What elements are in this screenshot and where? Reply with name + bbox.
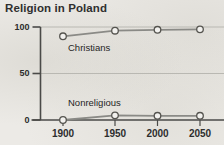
series-label-christians: Christians [68, 43, 110, 53]
data-point-nonreligious-2050 [197, 113, 204, 120]
data-point-christians-2000 [154, 26, 161, 33]
data-point-christians-2050 [197, 26, 204, 33]
data-point-christians-1950 [112, 27, 119, 34]
data-point-christians-1900 [60, 33, 67, 40]
data-point-nonreligious-1900 [60, 117, 67, 124]
chart-figure: Religion in Poland 100 50 0 1900 1950 20… [0, 0, 224, 145]
plot-area [0, 0, 224, 145]
data-point-nonreligious-1950 [112, 112, 119, 119]
plot-canvas [0, 0, 224, 145]
series-line-christians [63, 29, 200, 36]
data-point-nonreligious-2000 [154, 113, 161, 120]
series-label-nonreligious: Nonreligious [68, 98, 121, 108]
chart-title: Religion in Poland [5, 2, 107, 14]
